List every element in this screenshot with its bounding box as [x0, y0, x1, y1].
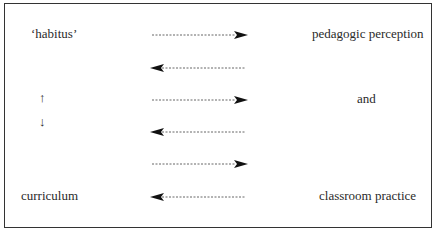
habitus-label: ‘habitus’ [31, 26, 77, 42]
left-arrow-icon [150, 192, 248, 202]
classroom-practice-label: classroom practice [319, 188, 416, 204]
left-arrow-icon [150, 63, 248, 73]
down-arrow-icon: ↓ [39, 114, 46, 130]
right-arrow-icon [150, 95, 248, 105]
curriculum-label: curriculum [21, 188, 78, 204]
right-arrow-icon [150, 159, 248, 169]
right-arrow-icon [150, 30, 248, 40]
up-arrow-icon: ↑ [39, 90, 46, 106]
pedagogic-perception-label: pedagogic perception [312, 26, 424, 42]
and-label: and [357, 91, 376, 107]
left-arrow-icon [150, 127, 248, 137]
